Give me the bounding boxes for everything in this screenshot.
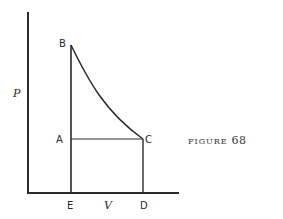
point-label-c: C: [145, 134, 152, 145]
point-label-d: D: [140, 200, 148, 211]
axis-label-p: P: [12, 87, 21, 100]
point-label-a: A: [56, 134, 63, 145]
point-label-b: B: [59, 38, 66, 49]
figure-caption-number: 68: [231, 134, 246, 147]
pv-diagram: B A C E D V P: [0, 0, 283, 219]
figure-caption: FIGURE 68: [188, 134, 246, 147]
figure-caption-word: FIGURE: [188, 137, 228, 146]
point-label-e: E: [67, 200, 73, 211]
axis-label-v: V: [104, 199, 113, 212]
curve-bc: [71, 45, 143, 139]
